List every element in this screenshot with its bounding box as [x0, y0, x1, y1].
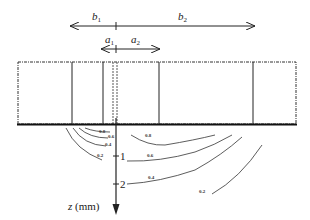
z-tick-1: 1	[120, 150, 126, 162]
contour-label-right-0.2: 0.2	[199, 189, 206, 194]
stress-contour-diagram: b1 b2 a1 a2 1 2 z (mm) 0.8 0.6 0	[0, 0, 310, 220]
label-a2: a2	[131, 33, 141, 47]
z-tick-2: 2	[120, 178, 126, 190]
contours-right	[127, 135, 262, 194]
contour-label-right-0.6: 0.6	[147, 153, 154, 158]
contour-label-right-0.4: 0.4	[148, 175, 155, 180]
contour-label-left-0.2: 0.2	[97, 153, 104, 158]
label-b2: b2	[178, 10, 188, 24]
dimension-a: a1 a2	[101, 33, 160, 53]
label-b1: b1	[92, 10, 102, 24]
contour-label-left-0.4: 0.4	[105, 142, 112, 147]
contour-label-left-0.6: 0.6	[108, 134, 115, 139]
z-axis-label: z (mm)	[67, 200, 100, 213]
dimension-b: b1 b2	[70, 10, 255, 30]
layered-block	[17, 62, 297, 125]
label-a1: a1	[105, 33, 115, 47]
z-axis: 1 2 z (mm)	[67, 118, 126, 215]
contour-label-right-0.8: 0.8	[145, 133, 152, 138]
contour-label-left-0.8: 0.8	[99, 129, 106, 134]
